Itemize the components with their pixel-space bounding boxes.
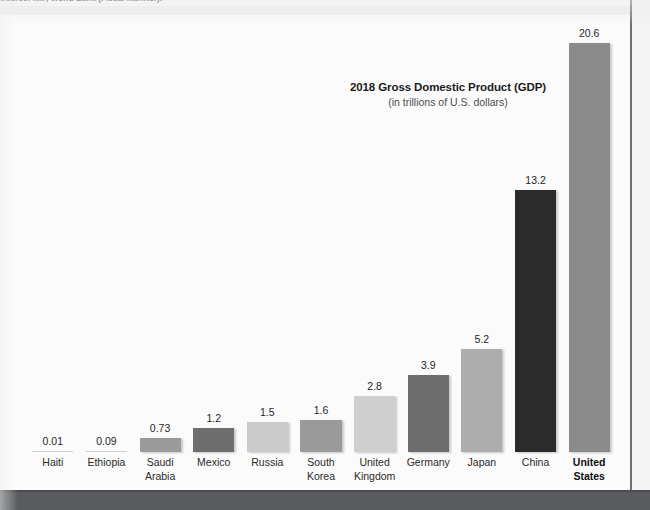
bar (515, 190, 556, 452)
source-note-text: Source: IMF, World Bank (Fiscal monitor)… (0, 0, 430, 4)
bar (300, 420, 341, 452)
gdp-bar-chart: 2018 Gross Domestic Product (GDP) (in tr… (0, 15, 632, 492)
bar (569, 43, 610, 452)
right-border-rule (630, 0, 632, 492)
x-tick-label-line: South (294, 456, 348, 470)
bar-value-label: 0.01 (26, 435, 80, 447)
x-tick-label-line: China (509, 456, 563, 470)
x-tick-label-line: United (562, 456, 616, 470)
x-tick-label-line: Mexico (187, 456, 241, 470)
bar-value-label: 1.5 (241, 406, 295, 418)
x-tick-label-line: Kingdom (348, 470, 402, 484)
bar-value-label: 0.73 (133, 422, 187, 434)
x-tick-label: Russia (241, 456, 295, 470)
bar-value-label: 5.2 (455, 333, 509, 345)
bar-value-label: 3.9 (401, 359, 455, 371)
bar-group: 3.9 (401, 15, 455, 452)
x-tick-label-line: Germany (401, 456, 455, 470)
bar-value-label: 1.6 (294, 404, 348, 416)
bar (32, 451, 73, 453)
bar-value-label: 20.6 (562, 27, 616, 39)
bar-group: 20.6 (562, 15, 616, 452)
bar (247, 422, 288, 452)
x-tick-label-line: States (562, 470, 616, 484)
bar (193, 428, 234, 452)
x-tick-label: SouthKorea (294, 456, 348, 483)
bar-group: 13.2 (509, 15, 563, 452)
bottom-band (0, 492, 650, 510)
x-tick-label: Japan (455, 456, 509, 470)
x-tick-label: SaudiArabia (133, 456, 187, 483)
x-tick-label-line: Russia (241, 456, 295, 470)
bar-group: 0.01 (26, 15, 80, 452)
bar-value-label: 13.2 (509, 174, 563, 186)
bar (86, 451, 127, 453)
bar-group: 1.2 (187, 15, 241, 452)
chart-page: Source: IMF, World Bank (Fiscal monitor)… (0, 0, 650, 510)
bar-group: 1.5 (241, 15, 295, 452)
x-tick-label: Ethiopia (80, 456, 134, 470)
bar (461, 349, 502, 452)
bar (140, 438, 181, 453)
bar-group: 0.73 (133, 15, 187, 452)
bar-group: 2.8 (348, 15, 402, 452)
bar-group: 1.6 (294, 15, 348, 452)
top-band (0, 6, 650, 15)
x-tick-label-line: Japan (455, 456, 509, 470)
plot-area: 0.010.090.731.21.51.62.83.95.213.220.6 (26, 15, 616, 452)
x-tick-label-line: United (348, 456, 402, 470)
x-tick-label-line: Ethiopia (80, 456, 134, 470)
bar-group: 0.09 (80, 15, 134, 452)
bar-group: 5.2 (455, 15, 509, 452)
x-tick-label: Germany (401, 456, 455, 470)
x-tick-label: Mexico (187, 456, 241, 470)
bar (408, 375, 449, 452)
bar-value-label: 1.2 (187, 412, 241, 424)
bar-value-label: 2.8 (348, 380, 402, 392)
source-note: Source: IMF, World Bank (Fiscal monitor)… (0, 0, 430, 4)
x-tick-label: UnitedKingdom (348, 456, 402, 483)
x-tick-label-line: Arabia (133, 470, 187, 484)
bar (354, 396, 395, 452)
x-tick-label: UnitedStates (562, 456, 616, 483)
right-gutter (632, 0, 650, 492)
x-tick-label: China (509, 456, 563, 470)
x-tick-label-line: Korea (294, 470, 348, 484)
bar-value-label: 0.09 (80, 435, 134, 447)
x-tick-label-line: Saudi (133, 456, 187, 470)
x-tick-label: Haiti (26, 456, 80, 470)
x-tick-label-line: Haiti (26, 456, 80, 470)
